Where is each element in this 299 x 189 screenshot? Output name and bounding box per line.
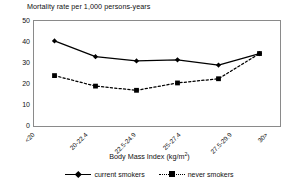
current-smokers-point-0 (52, 38, 57, 43)
series-never-smokers (52, 51, 262, 93)
current-smokers-point-2 (134, 58, 139, 63)
legend-key-diamond-line-icon (65, 170, 91, 179)
x-axis-title-close: ) (187, 152, 189, 161)
chart-legend: current smokers never smokers (0, 170, 299, 179)
legend-entry-never-smokers: never smokers (159, 170, 234, 179)
chart-figure: Mortality rate per 1,000 persons-years 5… (0, 0, 299, 189)
legend-label-current-smokers: current smokers (94, 171, 144, 178)
legend-label-never-smokers: never smokers (188, 171, 234, 178)
never-smokers-point-1 (93, 84, 98, 89)
never-smokers-point-5 (257, 51, 262, 56)
current-smokers-point-4 (216, 63, 221, 68)
never-smokers-point-2 (134, 88, 139, 93)
legend-entry-current-smokers: current smokers (65, 170, 144, 179)
x-axis-title: Body Mass Index (kg/m2) (0, 151, 299, 161)
current-smokers-point-3 (175, 57, 180, 62)
x-axis-title-main: Body Mass Index (kg/m (109, 152, 184, 161)
never-smokers-point-3 (175, 81, 180, 86)
current-smokers-point-1 (93, 54, 98, 59)
legend-key-square-dashed-line-icon (159, 170, 185, 179)
never-smokers-point-0 (52, 73, 57, 78)
series-current-smokers (52, 38, 262, 67)
never-smokers-point-4 (216, 76, 221, 81)
